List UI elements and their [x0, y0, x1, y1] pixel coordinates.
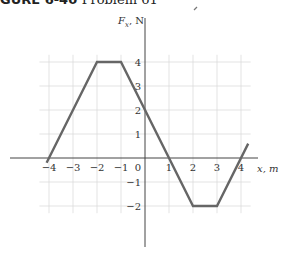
x-tick-label: −4 [42, 162, 57, 173]
pen-mark [194, 7, 197, 10]
y-tick-label: 4 [135, 57, 141, 68]
x-tick-label: 0 [135, 162, 141, 173]
x-tick-label: 2 [190, 162, 196, 173]
force-position-chart: −4−3−2−1012344321−1−2 x, m Fx, N [0, 0, 287, 257]
tick-labels: −4−3−2−1012344321−1−2 [42, 57, 245, 212]
x-tick-label: −3 [66, 162, 81, 173]
x-tick-label: 3 [214, 162, 220, 173]
y-tick-label: −2 [126, 201, 141, 212]
y-tick-label: 1 [135, 129, 141, 140]
x-tick-label: −1 [114, 162, 129, 173]
x-tick-label: −2 [90, 162, 105, 173]
x-axis-label: x, m [257, 163, 278, 174]
y-tick-label: 2 [135, 105, 141, 116]
y-axis-label: Fx, N [117, 15, 144, 29]
y-tick-label: −1 [126, 177, 141, 188]
